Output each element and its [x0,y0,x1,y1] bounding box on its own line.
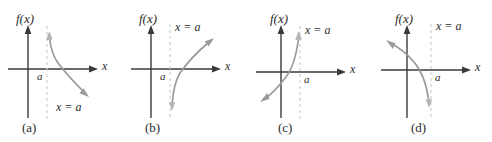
y-axis [404,25,411,118]
y-axis-label: f(x) [16,12,34,25]
asymptote-tick-label: a [304,74,310,85]
y-axis-label: f(x) [395,12,413,25]
panel-c: f(x) x a x = a (c) [246,0,369,142]
asymptote-label: x = a [56,101,81,113]
y-axis-label: f(x) [270,12,288,25]
y-axis [25,25,32,118]
asymptote-tick-label: a [435,72,441,83]
x-axis-label: x [350,63,355,75]
x-axis [8,66,98,73]
curve [386,40,432,108]
panel-d-graph [369,0,492,142]
y-axis [148,25,155,118]
x-axis-label: x [102,60,107,72]
panel-a: f(x) x a x = a (a) [0,0,123,142]
panel-caption: (d) [411,120,426,136]
asymptote-tick-label: a [37,71,43,82]
curve [169,38,214,111]
curve [46,31,89,97]
panel-caption: (a) [22,120,36,136]
x-axis [131,66,221,73]
asymptote-tick-label: a [160,71,166,82]
panel-d: f(x) x a x = a (d) [369,0,492,142]
asymptote-label: x = a [305,24,330,36]
panel-caption: (c) [278,120,292,136]
panel-caption: (b) [145,120,160,136]
figure-four-asymptote-graphs: f(x) x a x = a (a) f(x) x a x = a [0,0,492,142]
asymptote-label: x = a [175,21,200,33]
y-axis-label: f(x) [139,12,157,25]
x-axis-label: x [225,60,230,72]
x-axis [256,69,346,76]
asymptote-label: x = a [436,20,461,32]
panel-b: f(x) x a x = a (b) [123,0,246,142]
x-axis [381,67,471,74]
x-axis-label: x [475,61,480,73]
